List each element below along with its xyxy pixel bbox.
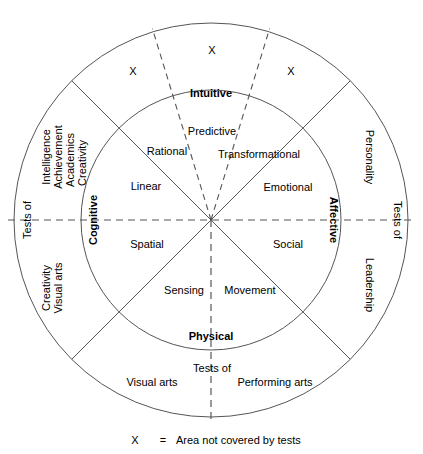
- outer-label-bottom-tests-of: Tests of: [193, 362, 232, 374]
- segment-label-linear: Linear: [131, 180, 162, 192]
- outer-label-leadership: Leadership: [364, 258, 376, 312]
- segment-label-predictive: Predictive: [188, 125, 236, 137]
- outer-label-performing-arts: Performing arts: [237, 376, 313, 388]
- outer-label-visual-arts-left: Visual arts: [52, 262, 64, 314]
- x-mark-center: X: [208, 44, 216, 56]
- outer-label-right-tests-of: Tests of: [392, 201, 404, 240]
- segment-label-movement: Movement: [224, 284, 275, 296]
- quadrant-label-affective: Affective: [328, 197, 340, 243]
- segment-label-transformational: Transformational: [218, 148, 300, 160]
- legend-equals: =: [160, 434, 166, 446]
- quadrant-label-cognitive: Cognitive: [87, 195, 99, 245]
- quadrant-label-physical: Physical: [189, 330, 234, 342]
- outer-label-creativity-lower: Creativity: [40, 265, 52, 311]
- outer-label-achievement: Achievement: [52, 125, 64, 189]
- x-mark-left: X: [129, 65, 137, 77]
- legend-symbol: X: [131, 434, 139, 446]
- wheel-diagram: Intuitive Physical Cognitive Affective R…: [0, 0, 423, 454]
- quadrant-label-intuitive: Intuitive: [190, 87, 232, 99]
- segment-label-emotional: Emotional: [264, 181, 313, 193]
- outer-label-visual-arts-bottom: Visual arts: [126, 376, 178, 388]
- segment-label-sensing: Sensing: [164, 284, 204, 296]
- segment-label-social: Social: [273, 238, 303, 250]
- outer-label-creativity-upper: Creativity: [76, 140, 88, 186]
- wheel-svg: Intuitive Physical Cognitive Affective R…: [0, 0, 423, 454]
- outer-label-left-tests-of: Tests of: [21, 200, 33, 239]
- outer-label-academics: Academics: [64, 133, 76, 187]
- outer-label-personality: Personality: [364, 130, 376, 185]
- legend-text: Area not covered by tests: [176, 434, 301, 446]
- outer-label-intelligence: Intelligence: [40, 129, 52, 185]
- segment-label-rational: Rational: [147, 145, 187, 157]
- x-mark-right: X: [287, 65, 295, 77]
- segment-label-spatial: Spatial: [130, 238, 164, 250]
